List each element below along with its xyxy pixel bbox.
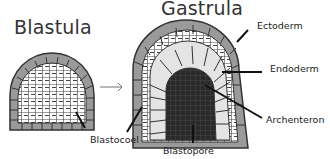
label-blastopore: Blastopore	[163, 145, 214, 156]
blastula-embryo	[10, 53, 94, 130]
leader-ectoderm	[237, 30, 248, 42]
label-archenteron: Archenteron	[266, 114, 324, 125]
label-blastocoel: Blastocoel	[90, 134, 139, 145]
arrow-icon	[100, 83, 122, 91]
label-endoderm: Endoderm	[270, 63, 319, 74]
gastrula-embryo	[133, 20, 248, 148]
label-ectoderm: Ectoderm	[257, 20, 303, 31]
